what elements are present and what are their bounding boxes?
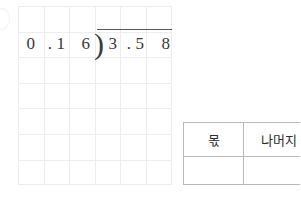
table-header-quotient: 몫 <box>184 123 244 157</box>
table-row <box>184 157 301 185</box>
grid-line-horizontal <box>18 108 172 109</box>
answer-cell-quotient[interactable] <box>184 157 244 185</box>
grid-line-horizontal <box>18 83 172 84</box>
grid-line-horizontal <box>18 160 172 161</box>
table-header-row: 몫 나머지 <box>184 123 301 157</box>
table-header-remainder: 나머지 <box>244 123 301 157</box>
grid-line-horizontal <box>18 134 172 135</box>
long-division-expression: 0 . 1 6 ) 3 . 5 8 <box>18 29 172 59</box>
grid-line-horizontal <box>18 6 172 7</box>
dividend-digit-5: 5 <box>127 29 153 59</box>
divisor-digit-1: 1 <box>48 29 74 59</box>
dividend-digit-8: 8 <box>153 29 179 59</box>
answer-cell-remainder[interactable] <box>244 157 301 185</box>
page-edge-artifact <box>0 8 10 30</box>
answer-table: 몫 나머지 <box>183 122 300 185</box>
grid-line-horizontal <box>18 184 172 185</box>
